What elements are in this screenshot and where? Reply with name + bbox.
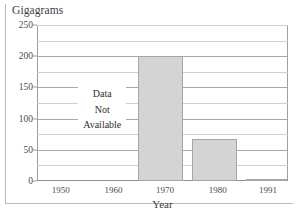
x-tick-label-1950: 1950 — [52, 185, 70, 195]
annotation-line-1: Data — [78, 86, 126, 102]
bar-1970[interactable] — [138, 56, 183, 181]
y-tick-label: 50 — [24, 145, 34, 155]
y-axis-title: Gigagrams — [12, 4, 63, 16]
y-tick-label: 100 — [19, 114, 33, 124]
y-tick-mark — [33, 56, 37, 57]
annotation-line-2: Not — [78, 101, 126, 117]
figure-left-rule — [5, 4, 6, 204]
gridline — [37, 41, 288, 42]
y-tick-mark — [33, 25, 37, 26]
y-tick-label: 0 — [28, 176, 33, 186]
y-tick-mark — [33, 181, 37, 182]
x-tick-label-1970: 1970 — [156, 185, 174, 195]
x-axis-title: Year — [152, 198, 172, 210]
figure-bottom-rule — [5, 203, 293, 204]
gridline — [37, 25, 288, 26]
y-tick-mark — [33, 118, 37, 119]
plot-area: 250 200 150 100 50 0 Data Not Available … — [37, 25, 288, 181]
chart-figure: Gigagrams 250 200 150 100 50 0 D — [0, 0, 298, 213]
x-tick-label-1980: 1980 — [209, 185, 227, 195]
y-tick-mark — [33, 149, 37, 150]
data-not-available-annotation: Data Not Available — [78, 86, 126, 133]
bar-1980[interactable] — [192, 139, 237, 181]
y-tick-label: 200 — [19, 51, 33, 61]
annotation-line-3: Available — [78, 117, 126, 133]
x-tick-label-1991: 1991 — [259, 185, 277, 195]
y-tick-label: 250 — [19, 20, 33, 30]
y-tick-label: 150 — [19, 82, 33, 92]
y-tick-mark — [33, 87, 37, 88]
x-tick-label-1960: 1960 — [105, 185, 123, 195]
bar-1991[interactable] — [246, 179, 287, 181]
